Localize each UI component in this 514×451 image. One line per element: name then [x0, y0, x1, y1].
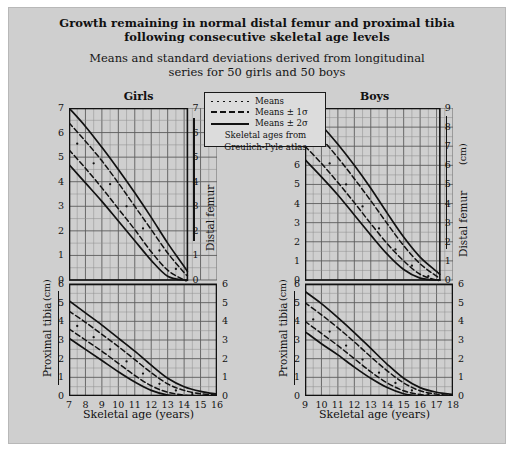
y-tick-femur: 9	[445, 103, 459, 112]
axis-title-proximal-tibia: Proximal tibia	[41, 303, 53, 378]
x-tick: 18	[443, 400, 463, 410]
y-tick-tibia-right: 3	[458, 335, 472, 344]
plot-area-boys	[305, 108, 453, 396]
legend-item-means-1sd: Means ± 1σ	[210, 107, 321, 117]
legend-key-dashed-icon	[210, 108, 250, 117]
y-tick-tibia-right: 2	[222, 354, 236, 363]
legend-label-means-1sd: Means ± 1σ	[255, 108, 308, 117]
y-tick-tibia-right: 0	[222, 391, 236, 400]
axis-unit-proximal-tibia: (cm)	[41, 279, 52, 301]
y-tick-tibia-right: 0	[458, 391, 472, 400]
axis-rule-femur	[193, 118, 194, 241]
figure-subtitle: Means and standard deviations derived fr…	[9, 51, 505, 79]
y-tick-tibia-right: 5	[458, 298, 472, 307]
legend-note-line-2: Greulich-Pyle atlas	[210, 142, 321, 152]
y-tick-tibia-right: 4	[222, 316, 236, 325]
axis-title-distal-femur: Distal femur	[457, 191, 469, 257]
axis-rule-femur	[446, 116, 447, 250]
axis-rule-tibia	[58, 291, 59, 384]
y-tick-femur-left: 4	[286, 199, 300, 208]
axis-title-proximal-tibia: Proximal tibia	[277, 303, 289, 378]
plot-svg-boys	[305, 108, 453, 396]
x-tick: 16	[207, 400, 227, 410]
y-tick-tibia: 0	[50, 391, 64, 400]
y-tick-femur-left: 1	[286, 256, 300, 265]
y-tick-tibia-right: 2	[458, 354, 472, 363]
y-tick-tibia-right: 3	[222, 335, 236, 344]
y-tick-femur-left: 5	[50, 152, 64, 161]
axis-rule-tibia	[294, 291, 295, 384]
figure-subtitle-line-2: series for 50 girls and 50 boys	[9, 65, 505, 79]
axis-unit-proximal-tibia: (cm)	[277, 279, 288, 301]
y-tick-femur: 0	[192, 275, 206, 284]
legend-label-means-2sd: Means ± 2σ	[255, 119, 308, 128]
y-tick-femur: 1	[192, 250, 206, 259]
growth-remaining-figure: Growth remaining in normal distal femur …	[8, 7, 506, 444]
y-tick-femur: 0	[445, 275, 459, 284]
y-tick-femur-left: 3	[50, 201, 64, 210]
y-tick-tibia-right: 1	[458, 372, 472, 381]
legend-label-means: Means	[255, 97, 284, 106]
y-tick-femur-left: 6	[50, 128, 64, 137]
legend-key-dotted-icon	[210, 97, 250, 106]
y-tick-femur-left: 6	[286, 160, 300, 169]
y-tick-tibia: 6	[50, 279, 64, 288]
figure-title-block: Growth remaining in normal distal femur …	[9, 16, 505, 79]
y-tick-tibia-right: 4	[458, 316, 472, 325]
axis-unit-distal-femur: (cm)	[457, 144, 468, 166]
y-tick-femur-left: 4	[50, 177, 64, 186]
legend-item-means: Means	[210, 96, 321, 106]
y-tick-tibia-right: 5	[222, 298, 236, 307]
y-tick-tibia-right: 1	[222, 372, 236, 381]
legend-box: Means Means ± 1σ Means ± 2σ Skeletal age…	[204, 92, 326, 147]
y-tick-femur-left: 3	[286, 218, 300, 227]
y-tick-tibia-right: 6	[458, 279, 472, 288]
y-tick-tibia: 6	[286, 279, 300, 288]
legend-item-means-2sd: Means ± 2σ	[210, 118, 321, 128]
y-tick-femur-left: 5	[286, 179, 300, 188]
axis-title-distal-femur: Distal femur	[204, 184, 216, 250]
y-tick-femur-left: 2	[50, 226, 64, 235]
legend-note-line-1: Skeletal ages from	[210, 130, 321, 140]
y-tick-tibia: 0	[286, 391, 300, 400]
y-tick-femur-left: 7	[50, 103, 64, 112]
legend-key-solid-icon	[210, 119, 250, 128]
y-tick-femur-left: 2	[286, 237, 300, 246]
figure-title-line-1: Growth remaining in normal distal femur …	[9, 16, 505, 30]
figure-subtitle-line-1: Means and standard deviations derived fr…	[9, 51, 505, 65]
figure-title-line-2: following consecutive skeletal age level…	[9, 30, 505, 44]
y-tick-femur: 1	[445, 256, 459, 265]
figure-title: Growth remaining in normal distal femur …	[9, 16, 505, 44]
y-tick-tibia-right: 6	[222, 279, 236, 288]
y-tick-femur-left: 1	[50, 250, 64, 259]
